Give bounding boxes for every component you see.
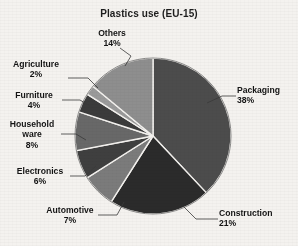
- slice-label-automotive: Automotive 7%: [41, 205, 99, 226]
- slice-label-agriculture-name: Agriculture: [13, 59, 59, 69]
- slice-label-others-name: Others: [98, 28, 126, 38]
- leader-line-1: [183, 206, 218, 219]
- slice-label-household-ware: Household ware 8%: [4, 119, 60, 150]
- slice-label-packaging-name: Packaging: [237, 85, 280, 95]
- slice-label-household-ware-name-line1: Household: [10, 119, 54, 129]
- slice-label-construction-name: Construction: [219, 208, 272, 218]
- slice-label-electronics-name: Electronics: [17, 166, 63, 176]
- slice-label-household-ware-name-line2: ware: [4, 129, 60, 139]
- slice-label-others: Others 14%: [88, 28, 136, 49]
- slice-label-automotive-name: Automotive: [46, 205, 93, 215]
- slice-label-furniture-name: Furniture: [15, 90, 53, 100]
- chart-canvas: Plastics use (EU-15) Packaging 38% Const…: [0, 0, 298, 246]
- slice-label-others-pct: 14%: [88, 38, 136, 48]
- slice-label-household-ware-pct: 8%: [4, 140, 60, 150]
- slice-label-agriculture-pct: 2%: [4, 69, 68, 79]
- slice-label-furniture-pct: 4%: [6, 100, 62, 110]
- slice-label-furniture: Furniture 4%: [6, 90, 62, 111]
- slice-label-construction-pct: 21%: [219, 218, 272, 228]
- slice-label-construction: Construction 21%: [219, 208, 272, 229]
- slice-label-electronics-pct: 6%: [11, 176, 69, 186]
- slice-label-packaging-pct: 38%: [237, 95, 280, 105]
- slice-label-packaging: Packaging 38%: [237, 85, 280, 106]
- slice-label-electronics: Electronics 6%: [11, 166, 69, 187]
- slice-label-agriculture: Agriculture 2%: [4, 59, 68, 80]
- slice-label-automotive-pct: 7%: [41, 215, 99, 225]
- pie-slices: [75, 58, 231, 214]
